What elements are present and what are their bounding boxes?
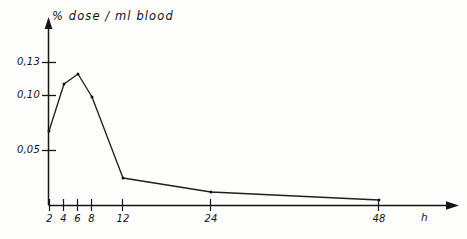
y-tick-label-013: 0,13 xyxy=(8,56,40,67)
x-tick-label-8: 8 xyxy=(83,213,100,224)
x-tick-label-12: 12 xyxy=(113,213,133,224)
data-series-line xyxy=(49,74,379,200)
y-tick-label-010: 0,10 xyxy=(8,89,40,100)
data-point xyxy=(77,73,80,76)
data-point xyxy=(378,199,381,202)
y-tick-label-005: 0,05 xyxy=(8,144,40,155)
chart-axis-title: % dose / ml blood xyxy=(52,9,174,23)
data-point xyxy=(63,83,66,86)
y-axis xyxy=(45,17,53,205)
data-point xyxy=(48,130,51,133)
chart-container: % dose / ml blood 0,13 0,10 0,05 2 4 6 8… xyxy=(0,0,467,239)
data-point xyxy=(91,96,94,99)
x-axis-unit-label: h xyxy=(421,211,428,223)
chart-plot-area xyxy=(0,0,467,239)
data-point-markers xyxy=(48,73,381,202)
data-point xyxy=(210,191,213,194)
data-point xyxy=(122,177,125,180)
x-tick-label-24: 24 xyxy=(201,213,221,224)
x-axis xyxy=(49,201,460,209)
x-tick-label-48: 48 xyxy=(369,213,389,224)
